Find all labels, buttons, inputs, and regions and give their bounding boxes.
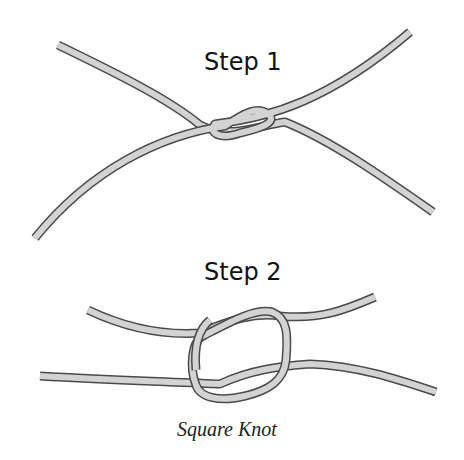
step-2-upper-rope xyxy=(88,297,375,333)
step-2-illustration xyxy=(40,297,436,399)
step-1-label: Step 1 xyxy=(204,48,282,76)
step-2-lower-rope xyxy=(40,364,436,392)
diagram-caption: Square Knot xyxy=(177,418,277,441)
step-2-label: Step 2 xyxy=(204,258,282,286)
